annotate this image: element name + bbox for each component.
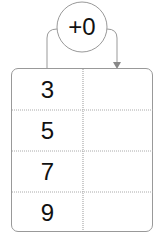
table-cell-right[interactable] [83, 110, 153, 151]
table-cell-right[interactable] [83, 151, 153, 192]
table-cell-left: 9 [12, 192, 83, 233]
table-cell-left: 3 [12, 69, 83, 110]
table-cell-right[interactable] [83, 192, 153, 233]
table-cell-left: 5 [12, 110, 83, 151]
operation-label: +0 [57, 2, 107, 52]
left-connector [47, 29, 57, 68]
table-cell-right[interactable] [83, 69, 153, 110]
number-table: 3 5 7 9 [11, 68, 153, 232]
table-cell-left: 7 [12, 151, 83, 192]
right-connector [107, 29, 117, 62]
